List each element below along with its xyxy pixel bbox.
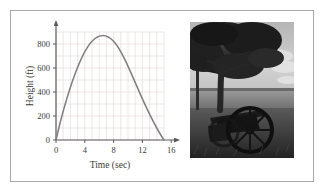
- y-tick-label-600: 600: [37, 63, 50, 73]
- y-tick-label-200: 200: [37, 111, 50, 121]
- photo-field: [190, 90, 294, 110]
- x-tick-label-0: 0: [54, 145, 58, 155]
- x-tick-label-12: 12: [138, 145, 147, 155]
- chart-svg: 0 4 8 12 16 0 200 400 600 800 Time (sec)…: [22, 18, 182, 174]
- y-axis-title: Height (ft): [25, 66, 36, 106]
- y-tick-label-400: 400: [37, 87, 50, 97]
- cannon-under-tree-photo: [190, 22, 294, 158]
- height-vs-time-chart: 0 4 8 12 16 0 200 400 600 800 Time (sec)…: [22, 18, 182, 174]
- y-tick-label-800: 800: [37, 39, 50, 49]
- photo-treeline: [190, 88, 294, 91]
- photo-svg: [190, 22, 294, 158]
- y-tick-label-0: 0: [46, 135, 50, 145]
- figure-container: 0 4 8 12 16 0 200 400 600 800 Time (sec)…: [0, 0, 326, 194]
- x-tick-label-8: 8: [111, 145, 115, 155]
- plot-area-background: [56, 32, 164, 140]
- x-tick-label-4: 4: [83, 145, 88, 155]
- x-axis-title: Time (sec): [90, 160, 131, 171]
- x-tick-label-16: 16: [167, 145, 176, 155]
